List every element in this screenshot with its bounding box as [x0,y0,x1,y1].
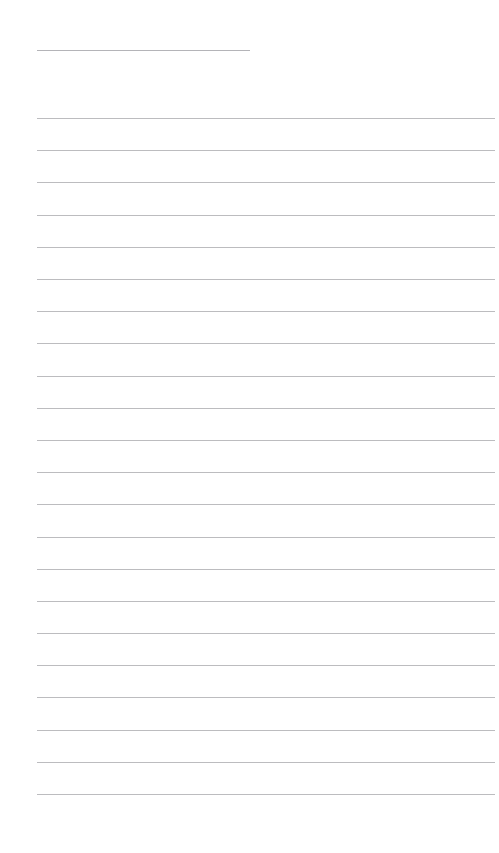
body-rule [37,794,495,795]
title-rule [37,50,250,51]
body-rule [37,440,495,441]
body-rule [37,343,495,344]
body-rule [37,472,495,473]
body-rule [37,311,495,312]
body-rule [37,537,495,538]
document-page [0,0,499,853]
body-rule [37,504,495,505]
body-rule [37,697,495,698]
body-rule [37,215,495,216]
body-rule [37,376,495,377]
body-rule [37,247,495,248]
body-rule [37,118,495,119]
body-rule [37,601,495,602]
body-rule [37,569,495,570]
body-rule [37,182,495,183]
body-rule [37,279,495,280]
body-rule [37,150,495,151]
document-content-area[interactable] [0,0,499,853]
body-rule [37,762,495,763]
body-rule [37,665,495,666]
body-rule [37,408,495,409]
body-rule [37,633,495,634]
body-rule [37,730,495,731]
